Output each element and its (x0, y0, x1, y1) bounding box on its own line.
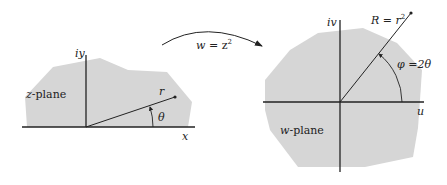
x-axis-label: x (182, 130, 189, 143)
y-axis-label: iy (75, 47, 86, 60)
z-plane-panel: iy x r θ z-plane (22, 47, 195, 143)
w-plane-label: w-plane (280, 124, 324, 137)
R-label: R = r2 (370, 13, 405, 27)
u-axis-label: u (417, 105, 424, 118)
z-plane-label: z-plane (25, 88, 66, 101)
v-axis-label: iv (327, 16, 338, 29)
mapping-label: w = z2 (196, 38, 232, 52)
r-label: r (159, 85, 165, 98)
mapping-arrow-group: w = z2 (162, 32, 262, 52)
phi-label: φ =2θ (397, 58, 431, 71)
theta-label: θ (158, 111, 165, 124)
conformal-mapping-diagram: iy x r θ z-plane w = z2 iv u R = r2 φ =2… (0, 0, 447, 185)
w-plane-panel: iv u R = r2 φ =2θ w-plane (263, 11, 431, 172)
point-z (173, 95, 176, 98)
point-w (409, 11, 412, 14)
